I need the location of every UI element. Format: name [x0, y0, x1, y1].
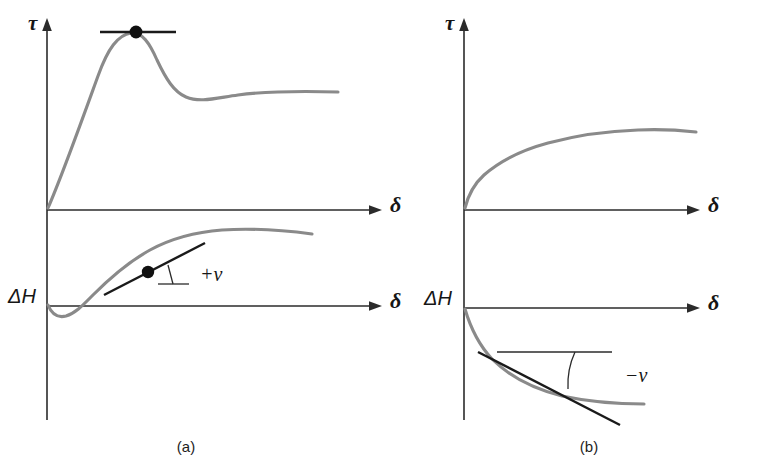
- panel-b-top-curve: [465, 130, 696, 208]
- caption-panel-a: (a): [177, 438, 195, 455]
- panel-b-top-x-axis-label: δ: [708, 192, 719, 217]
- panel-a-top-x-axis-label: δ: [390, 192, 401, 217]
- panel-a-bottom-x-axis-label: δ: [390, 288, 401, 313]
- panel-b-bottom-y-axis-label: ΔH: [423, 287, 452, 309]
- panel-a-bottom-tangent-marker: [142, 266, 154, 278]
- panel-a-bottom-dilatancy-label: +ν: [200, 263, 222, 285]
- panel-b-top-y-axis-label: τ: [445, 11, 455, 35]
- panel-b-top-plot: τ δ: [445, 11, 719, 420]
- panel-b-bottom-x-axis-arrowhead: [687, 303, 700, 313]
- panel-a-top-plot: τ δ: [28, 11, 401, 420]
- panel-a-bottom-x-axis-arrowhead: [369, 301, 382, 311]
- panel-b-bottom-plot: −ν ΔH δ: [423, 287, 719, 425]
- panel-a-bottom-y-axis-label: ΔH: [7, 285, 36, 307]
- panel-a-top-x-axis-arrowhead: [369, 205, 382, 215]
- panel-b-bottom-tangent: [478, 352, 620, 425]
- panel-b-top-x-axis-arrowhead: [687, 205, 700, 215]
- panel-a-top-y-axis-label: τ: [28, 11, 38, 35]
- figure-container: τ δ +ν ΔH δ: [0, 0, 769, 473]
- panel-b-bottom-curve: [465, 309, 644, 404]
- panel-b-top-y-axis-arrowhead: [459, 18, 469, 31]
- panel-b-bottom-angle-arc: [568, 352, 575, 389]
- caption-panel-b: (b): [580, 438, 598, 455]
- panel-b-bottom-contraction-label: −ν: [625, 364, 647, 386]
- panel-b-bottom-x-axis-label: δ: [708, 290, 719, 315]
- panel-a-bottom-plot: +ν ΔH δ: [7, 229, 401, 316]
- figure-svg: τ δ +ν ΔH δ: [0, 0, 769, 473]
- panel-a-top-y-axis-arrowhead: [42, 18, 52, 31]
- panel-a-bottom-angle-tick: [168, 265, 173, 284]
- panel-a-top-curve: [48, 33, 338, 208]
- panel-a-top-peak-marker: [130, 26, 143, 39]
- panel-a-bottom-tangent: [104, 243, 205, 295]
- panel-a-bottom-curve: [48, 229, 312, 316]
